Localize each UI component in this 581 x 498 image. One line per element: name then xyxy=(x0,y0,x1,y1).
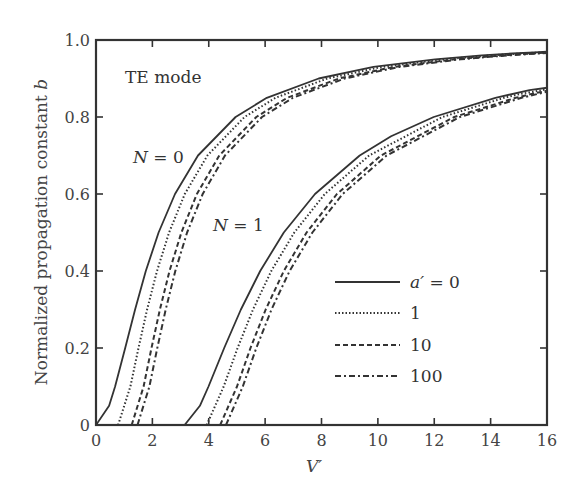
x-tick-label: 12 xyxy=(424,431,444,450)
y-tick-label: 0 xyxy=(80,416,90,435)
y-axis-title-text: Normalized propagation constant xyxy=(31,90,51,385)
legend-a-value: = 0 xyxy=(424,272,460,292)
y-tick-label: 1.0 xyxy=(65,31,90,50)
chart: 0246810121416 00.20.40.60.81.0 TE mode N… xyxy=(0,0,581,498)
data-series xyxy=(96,52,553,425)
series-line-n0-a100 xyxy=(138,53,553,425)
x-tick-label: 16 xyxy=(537,431,557,450)
y-tick-label: 0.2 xyxy=(65,339,90,358)
series-line-n1-a0 xyxy=(185,87,553,425)
y-axis-title: Normalized propagation constant b xyxy=(31,79,51,385)
legend: a′ = 0 1 10 100 xyxy=(335,272,460,386)
legend-label-0: a′ = 0 xyxy=(410,272,460,292)
x-axis-title: V′ xyxy=(306,456,322,476)
n0-annotation: N = 0 xyxy=(132,147,184,167)
x-tick-label: 4 xyxy=(204,431,214,450)
y-axis-title-var: b xyxy=(31,79,51,90)
x-tick-label: 14 xyxy=(480,431,500,450)
series-line-n0-a10 xyxy=(132,52,553,425)
x-tick-label: 10 xyxy=(368,431,388,450)
y-tick-label: 0.8 xyxy=(65,108,90,127)
series-line-n1-a1 xyxy=(207,89,553,426)
n1-annotation: N = 1 xyxy=(212,215,264,235)
n1-value: = 1 xyxy=(228,215,264,235)
legend-label-1: 1 xyxy=(410,303,421,323)
x-tick-label: 6 xyxy=(260,431,270,450)
y-tick-label: 0.6 xyxy=(65,185,90,204)
x-tick-label: 0 xyxy=(91,431,101,450)
x-tick-label: 8 xyxy=(316,431,326,450)
legend-label-100: 100 xyxy=(410,366,442,386)
series-line-n1-a100 xyxy=(226,90,553,425)
mode-annotation: TE mode xyxy=(125,67,201,87)
legend-a-var: a′ xyxy=(410,272,424,292)
n0-var: N xyxy=(132,147,149,167)
plot-frame xyxy=(96,40,547,425)
series-line-n0-a0 xyxy=(96,52,551,425)
n1-var: N xyxy=(212,215,229,235)
legend-label-10: 10 xyxy=(410,335,432,355)
x-tick-label: 2 xyxy=(147,431,157,450)
n0-value: = 0 xyxy=(148,147,184,167)
y-tick-label: 0.4 xyxy=(65,262,90,281)
x-axis-ticks: 0246810121416 xyxy=(91,40,557,450)
